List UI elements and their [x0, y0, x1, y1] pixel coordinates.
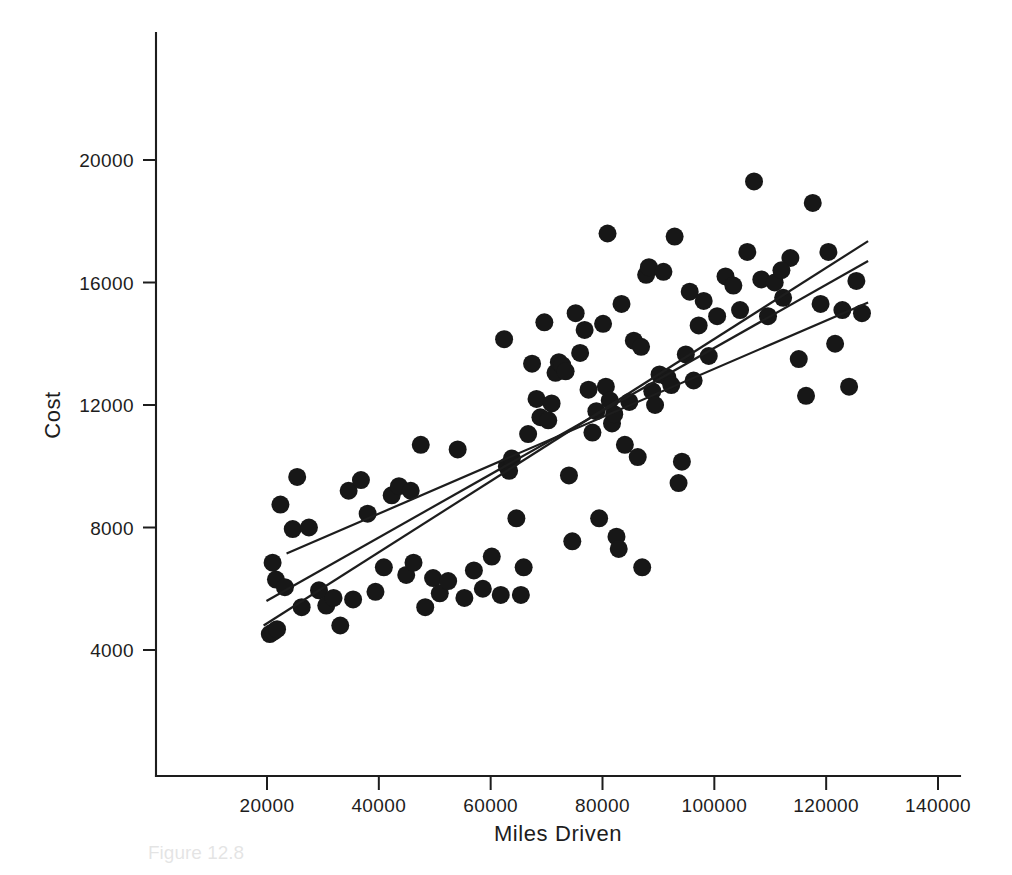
data-point: [455, 589, 473, 607]
data-point: [724, 277, 742, 295]
data-point: [580, 381, 598, 399]
data-point: [519, 425, 537, 443]
data-point: [325, 589, 343, 607]
x-axis-tick-labels: 20000400006000080000100000120000140000: [240, 795, 971, 816]
x-tick-label: 40000: [351, 795, 406, 816]
data-point: [439, 572, 457, 590]
data-point: [731, 301, 749, 319]
y-tick-label: 8000: [90, 518, 134, 539]
data-point: [590, 509, 608, 527]
data-point: [632, 338, 650, 356]
data-point: [359, 505, 377, 523]
data-point: [654, 263, 672, 281]
data-point: [576, 321, 594, 339]
data-point: [560, 466, 578, 484]
data-point: [483, 548, 501, 566]
data-point: [507, 509, 525, 527]
data-point: [512, 586, 530, 604]
data-point: [812, 295, 830, 313]
data-point: [352, 471, 370, 489]
data-point: [264, 554, 282, 572]
data-point: [819, 243, 837, 261]
data-point: [424, 569, 442, 587]
y-axis-title: Cost: [40, 391, 65, 439]
data-point: [708, 307, 726, 325]
data-point: [613, 295, 631, 313]
figure-caption-clip: Figure 12.8: [0, 845, 1012, 875]
scatter-plot: 40008000120001600020000 2000040000600008…: [0, 0, 1012, 875]
data-point: [797, 387, 815, 405]
data-point: [772, 261, 790, 279]
x-axis-title: Miles Driven: [494, 821, 622, 846]
data-point: [284, 520, 302, 538]
data-point: [670, 474, 688, 492]
data-point: [738, 243, 756, 261]
data-point: [826, 335, 844, 353]
data-point: [790, 350, 808, 368]
data-points-layer: [261, 172, 871, 643]
data-point: [804, 194, 822, 212]
data-point: [543, 394, 561, 412]
y-tick-label: 20000: [79, 150, 134, 171]
x-tick-label: 20000: [240, 795, 295, 816]
data-point: [465, 561, 483, 579]
data-point: [375, 558, 393, 576]
x-tick-label: 120000: [793, 795, 859, 816]
data-point: [515, 558, 533, 576]
y-tick-label: 4000: [90, 640, 134, 661]
data-point: [673, 453, 691, 471]
data-point: [535, 313, 553, 331]
data-point: [416, 598, 434, 616]
x-tick-label: 80000: [575, 795, 630, 816]
y-axis-ticks: [143, 160, 156, 650]
data-point: [700, 347, 718, 365]
data-point: [288, 468, 306, 486]
data-point: [557, 362, 575, 380]
data-point: [847, 272, 865, 290]
fit-line-steep: [264, 241, 868, 625]
data-point: [567, 304, 585, 322]
data-point: [300, 519, 318, 537]
data-point: [331, 617, 349, 635]
data-point: [594, 315, 612, 333]
data-point: [449, 440, 467, 458]
regression-lines-layer: [264, 241, 868, 625]
data-point: [366, 583, 384, 601]
data-point: [646, 396, 664, 414]
data-point: [492, 586, 510, 604]
data-point: [344, 590, 362, 608]
data-point: [495, 330, 513, 348]
y-axis-tick-labels: 40008000120001600020000: [79, 150, 134, 661]
data-point: [745, 172, 763, 190]
data-point: [629, 448, 647, 466]
data-point: [271, 496, 289, 514]
data-point: [268, 620, 286, 638]
data-point: [840, 378, 858, 396]
figure-caption: Figure 12.8: [148, 845, 244, 863]
data-point: [412, 436, 430, 454]
data-point: [695, 292, 713, 310]
y-tick-label: 12000: [79, 395, 134, 416]
data-point: [633, 558, 651, 576]
data-point: [523, 355, 541, 373]
x-axis-ticks: [267, 776, 938, 790]
data-point: [610, 540, 628, 558]
data-point: [690, 316, 708, 334]
x-tick-label: 100000: [681, 795, 747, 816]
fit-line-shallow: [287, 302, 869, 553]
data-point: [571, 344, 589, 362]
x-tick-label: 140000: [905, 795, 971, 816]
data-point: [583, 424, 601, 442]
data-point: [599, 225, 617, 243]
data-point: [539, 411, 557, 429]
data-point: [474, 580, 492, 598]
data-point: [563, 532, 581, 550]
y-tick-label: 16000: [79, 273, 134, 294]
data-point: [405, 554, 423, 572]
figure-container: 40008000120001600020000 2000040000600008…: [0, 0, 1012, 875]
x-tick-label: 60000: [463, 795, 518, 816]
data-point: [666, 228, 684, 246]
